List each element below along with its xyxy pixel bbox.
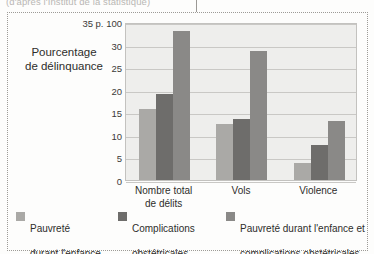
legend-item-0: Pauvreté durant l'enfance (16, 210, 124, 254)
y-tick-label: 25 (62, 63, 122, 74)
bar (311, 145, 328, 180)
bar (173, 31, 190, 180)
chart-legend: Pauvreté durant l'enfance Complications … (14, 210, 364, 244)
legend-item-2: Pauvreté durant l'enfance et complicatio… (226, 210, 374, 254)
x-tick-label-line: Vols (232, 185, 251, 198)
bar-group (126, 24, 203, 180)
y-tick-label: 35 p. 100 (62, 18, 122, 29)
y-tick-label: 0 (62, 176, 122, 187)
y-tick-label: 30 (62, 40, 122, 51)
bar (294, 163, 311, 180)
x-tick-label: Violence (299, 185, 337, 198)
x-axis-labels: Nombre totalde délitsVolsViolence (125, 185, 357, 211)
bar (216, 124, 233, 180)
bar (328, 121, 345, 180)
legend-label-0-line1: Pauvreté (30, 223, 70, 234)
top-rule-divider (196, 0, 197, 12)
bar (156, 94, 173, 180)
y-axis-ticks: 05101520253035 p. 100 (58, 23, 122, 181)
plot-area (125, 23, 357, 181)
x-tick-label: Vols (232, 185, 251, 198)
legend-label-1: Complications obstétricales (132, 210, 195, 254)
legend-label-2: Pauvreté durant l'enfance et complicatio… (240, 210, 365, 254)
legend-swatch-icon-2 (226, 212, 235, 221)
gridline (126, 182, 356, 183)
y-tick-label: 5 (62, 153, 122, 164)
chart-figure: (d'après l'Institut de la statistique) P… (0, 0, 374, 254)
legend-item-1: Complications obstétricales (118, 210, 228, 254)
bar-group (281, 24, 358, 180)
top-caption: (d'après l'Institut de la statistique) (6, 0, 206, 8)
y-tick-label: 20 (62, 85, 122, 96)
legend-swatch-icon-0 (16, 212, 25, 221)
bar-group (203, 24, 280, 180)
legend-label-1-line2: obstétricales (132, 248, 188, 254)
legend-label-1-line1: Complications (132, 223, 195, 234)
x-tick-label-line: Violence (299, 185, 337, 198)
y-tick-label: 10 (62, 130, 122, 141)
legend-swatch-icon-1 (118, 212, 127, 221)
legend-label-2-line2: complications obstétricales (240, 248, 360, 254)
legend-label-2-line1: Pauvreté durant l'enfance et (240, 223, 365, 234)
legend-label-0-line2: durant l'enfance (30, 248, 101, 254)
x-tick-label-line: de délits (135, 198, 192, 211)
bar (139, 109, 156, 180)
x-tick-label: Nombre totalde délits (135, 185, 192, 210)
bar (250, 51, 267, 180)
x-tick-label-line: Nombre total (135, 185, 192, 198)
y-tick-label: 15 (62, 108, 122, 119)
legend-label-0: Pauvreté durant l'enfance (30, 210, 101, 254)
bars-layer (126, 24, 356, 180)
bar (233, 119, 250, 180)
